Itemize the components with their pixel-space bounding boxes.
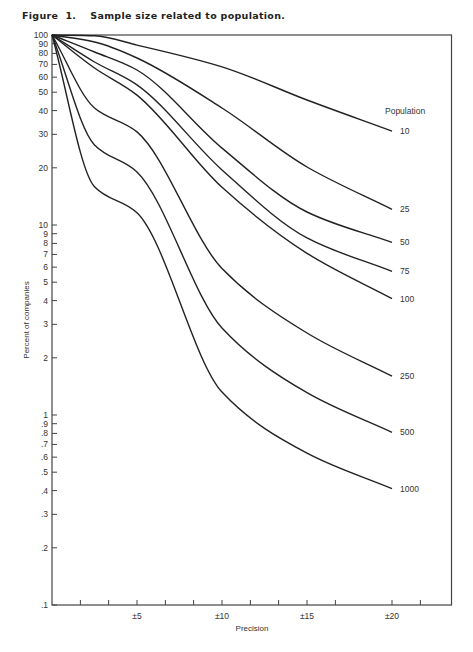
chart: 100908070605040302010987654321.9.8.7.6.5… bbox=[0, 0, 473, 652]
y-tick-label: 5 bbox=[43, 277, 48, 287]
curve-population-1000 bbox=[52, 35, 392, 489]
y-tick-label: 3 bbox=[43, 319, 48, 329]
series-label-1000: 1000 bbox=[400, 484, 419, 494]
y-tick-label: 8 bbox=[43, 238, 48, 248]
plot-frame bbox=[52, 35, 452, 605]
series-label-500: 500 bbox=[400, 427, 414, 437]
x-tick-label: ±5 bbox=[132, 611, 142, 621]
x-axis-title: Precision bbox=[236, 624, 269, 633]
curve-population-250 bbox=[52, 35, 392, 376]
y-tick-label: 2 bbox=[43, 353, 48, 363]
series-label-75: 75 bbox=[400, 266, 410, 276]
y-tick-label: 80 bbox=[39, 48, 49, 58]
series-label-25: 25 bbox=[400, 204, 410, 214]
y-tick-label: .7 bbox=[41, 439, 48, 449]
x-axis: ±5±10±15±20 bbox=[80, 600, 420, 621]
y-tick-label: .5 bbox=[41, 467, 48, 477]
x-tick-label: ±15 bbox=[300, 611, 314, 621]
series-label-250: 250 bbox=[400, 371, 414, 381]
y-axis-title: Percent of companies bbox=[22, 281, 31, 358]
y-tick-label: .2 bbox=[41, 543, 48, 553]
y-tick-label: 40 bbox=[39, 106, 49, 116]
series-label-50: 50 bbox=[400, 237, 410, 247]
plot-border bbox=[52, 35, 452, 605]
y-tick-label: .9 bbox=[41, 419, 48, 429]
series-label-100: 100 bbox=[400, 294, 414, 304]
curve-population-100 bbox=[52, 35, 392, 299]
y-tick-label: 50 bbox=[39, 87, 49, 97]
y-tick-label: .1 bbox=[41, 600, 48, 610]
x-tick-label: ±20 bbox=[385, 611, 399, 621]
series-label-10: 10 bbox=[400, 126, 410, 136]
y-tick-label: 6 bbox=[43, 262, 48, 272]
x-tick-label: ±10 bbox=[215, 611, 229, 621]
series-labels: 102550751002505001000 bbox=[400, 126, 419, 493]
curve-population-500 bbox=[52, 35, 392, 432]
series-curves bbox=[52, 35, 392, 489]
y-tick-label: .4 bbox=[41, 486, 48, 496]
y-tick-label: .8 bbox=[41, 428, 48, 438]
y-tick-label: 60 bbox=[39, 72, 49, 82]
y-tick-label: .3 bbox=[41, 509, 48, 519]
legend-title: Population bbox=[385, 106, 425, 116]
y-tick-label: 20 bbox=[39, 163, 49, 173]
curve-population-75 bbox=[52, 35, 392, 271]
y-tick-label: 30 bbox=[39, 129, 49, 139]
y-tick-label: .6 bbox=[41, 452, 48, 462]
y-tick-label: 4 bbox=[43, 296, 48, 306]
curve-population-10 bbox=[52, 35, 392, 131]
y-tick-label: 9 bbox=[43, 229, 48, 239]
y-tick-label: 90 bbox=[39, 39, 49, 49]
y-tick-label: 70 bbox=[39, 59, 49, 69]
y-tick-label: 7 bbox=[43, 249, 48, 259]
y-axis: 100908070605040302010987654321.9.8.7.6.5… bbox=[34, 30, 57, 610]
curve-population-25 bbox=[52, 35, 392, 209]
